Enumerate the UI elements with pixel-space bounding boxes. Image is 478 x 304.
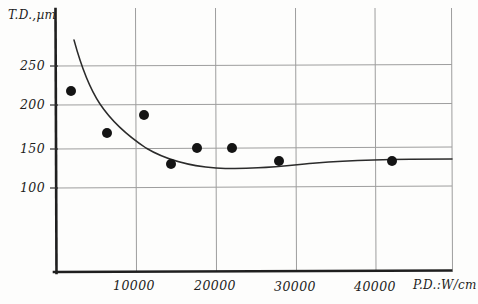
ytick-label-250: 250 xyxy=(19,58,45,73)
gridline-x-20000 xyxy=(216,8,217,272)
ytick-label-150: 150 xyxy=(20,141,45,156)
data-point xyxy=(387,156,397,166)
ytick-label-100: 100 xyxy=(20,180,45,195)
chart-figure: 250 200 150 100 10000 20000 30000 40000 … xyxy=(0,0,478,304)
data-point xyxy=(102,128,112,138)
x-axis-title: P.D.:W/cm xyxy=(412,278,477,292)
data-point xyxy=(166,159,176,169)
xtick-label-40000: 40000 xyxy=(353,279,396,294)
gridline-y-150 xyxy=(55,147,452,149)
xtick-label-20000: 20000 xyxy=(193,278,236,293)
horizontal-gridlines xyxy=(55,65,452,189)
xtick-label-10000: 10000 xyxy=(113,278,155,293)
gridline-x-40000 xyxy=(375,8,376,272)
x-axis-line xyxy=(54,271,451,273)
axis-lines xyxy=(54,9,451,273)
data-point xyxy=(227,143,237,153)
data-point xyxy=(192,143,202,153)
gridline-y-200 xyxy=(55,104,452,106)
gridline-y-100 xyxy=(55,186,452,188)
gridline-y-250 xyxy=(55,65,452,67)
xtick-label-30000: 30000 xyxy=(274,279,316,294)
data-point xyxy=(66,86,76,96)
gridline-x-right-border xyxy=(452,8,453,272)
data-points xyxy=(66,86,397,169)
ytick-label-200: 200 xyxy=(19,97,45,112)
data-point xyxy=(274,156,284,166)
vertical-gridlines xyxy=(136,8,453,272)
gridline-x-30000 xyxy=(296,8,297,272)
y-axis-line xyxy=(56,9,57,273)
data-point xyxy=(139,110,149,120)
y-axis-title: T.D.,µm xyxy=(8,8,56,22)
plot-canvas: 250 200 150 100 10000 20000 30000 40000 … xyxy=(0,0,478,304)
